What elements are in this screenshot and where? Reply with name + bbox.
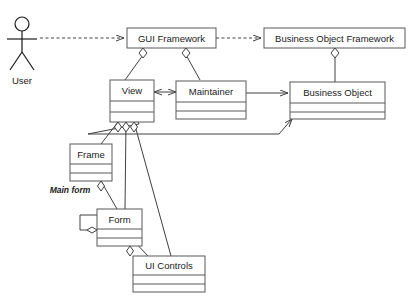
- maintainer-label: Maintainer: [189, 86, 233, 97]
- class-box-business-object-framework[interactable]: Business Object Framework: [264, 28, 405, 48]
- actor-user: User: [7, 17, 37, 86]
- class-box-business-object[interactable]: Business Object: [290, 82, 385, 119]
- connection-form-self: [80, 215, 97, 230]
- aggregation-diamond-gui-to-maintainer: [182, 48, 190, 58]
- aggregation-diamond-view-to-form: [123, 122, 130, 132]
- gui-framework-label: GUI Framework: [138, 33, 205, 44]
- ui-controls-label: UI Controls: [145, 260, 193, 271]
- aggregation-diamond-bof-to-bo: [331, 48, 339, 58]
- class-box-ui-controls[interactable]: UI Controls: [133, 256, 205, 292]
- aggregation-diamond-form-to-ui-controls: [127, 246, 134, 256]
- class-box-gui-framework[interactable]: GUI Framework: [127, 28, 216, 48]
- diagram-svg: User GUI Framework (dashed) --> Business…: [0, 0, 412, 305]
- class-box-form[interactable]: Form: [97, 209, 142, 246]
- aggregation-diamond-form-self: [87, 227, 97, 233]
- actor-head-icon: [15, 17, 29, 31]
- frame-label: Frame: [77, 149, 104, 160]
- connection-gui-framework-to-view: [125, 55, 143, 80]
- view-label: View: [122, 85, 143, 96]
- connection-view-to-form: [125, 122, 126, 209]
- aggregation-diamond-gui-to-view: [139, 48, 147, 58]
- uml-diagram-canvas: User GUI Framework (dashed) --> Business…: [0, 0, 412, 305]
- actor-leg-left-line: [10, 52, 22, 70]
- business-object-label: Business Object: [303, 87, 372, 98]
- actor-leg-right-line: [22, 52, 34, 70]
- actor-user-label: User: [12, 75, 32, 86]
- connection-gui-framework-to-maintainer: [186, 55, 200, 80]
- business-object-framework-label: Business Object Framework: [275, 33, 394, 44]
- edge-label-main-form: Main form: [50, 185, 91, 195]
- aggregation-diamond-view-to-frame: [115, 122, 122, 132]
- class-box-view[interactable]: View: [110, 80, 154, 122]
- form-label: Form: [108, 214, 130, 225]
- class-box-frame[interactable]: Frame: [70, 144, 112, 181]
- aggregation-diamond-frame-to-form: [98, 181, 105, 191]
- class-box-maintainer[interactable]: Maintainer: [176, 81, 246, 119]
